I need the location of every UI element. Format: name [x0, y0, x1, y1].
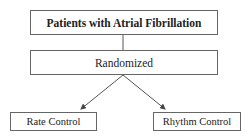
- arrow-to-rate-control: [81, 75, 123, 109]
- node-randomized: Randomized: [30, 50, 218, 75]
- node-label: Randomized: [95, 57, 153, 69]
- arrow-to-rhythm-control: [123, 75, 165, 109]
- node-rhythm-control: Rhythm Control: [153, 112, 241, 131]
- node-patients-with-af: Patients with Atrial Fibrillation: [30, 10, 218, 35]
- node-label: Rhythm Control: [163, 116, 232, 127]
- node-label: Rate Control: [27, 116, 81, 127]
- node-label: Patients with Atrial Fibrillation: [47, 17, 202, 29]
- node-rate-control: Rate Control: [10, 112, 97, 131]
